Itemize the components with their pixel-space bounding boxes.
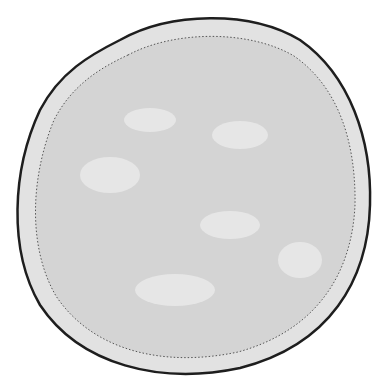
cytoplasm [36, 36, 356, 357]
cell-illustration: // build cilia around the outline (funct… [0, 0, 382, 386]
